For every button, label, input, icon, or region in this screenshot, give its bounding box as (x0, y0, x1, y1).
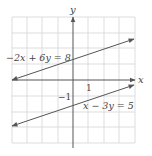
tick-label-x-1: 1 (86, 83, 92, 93)
equation-label-2: x − 3y = 5 (83, 100, 134, 111)
coordinate-graph: x y 1 −1 −2x + 6y = 8 x − 3y = 5 (0, 0, 152, 156)
equation-label-1: −2x + 6y = 8 (6, 52, 71, 63)
y-axis-label: y (69, 4, 76, 15)
x-axis-label: x (138, 74, 144, 85)
tick-label-y-neg1: −1 (58, 92, 71, 102)
